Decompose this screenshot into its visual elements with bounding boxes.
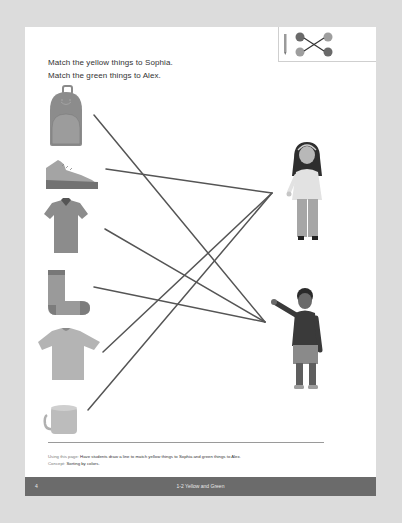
notes-divider: [48, 442, 324, 443]
concept-label: Concept:: [48, 461, 65, 466]
girl-figure-icon[interactable]: [287, 142, 323, 240]
line-sock-to-alex: [94, 287, 265, 322]
using-label: Using this page:: [48, 454, 79, 459]
boy-figure-icon[interactable]: [271, 288, 320, 389]
concept-note: Concept: Sorting by colors.: [48, 461, 100, 466]
using-this-page-note: Using this page: Have students draw a li…: [48, 454, 241, 459]
backpack-icon[interactable]: [50, 86, 82, 146]
line-sneaker-to-sophia: [106, 169, 272, 193]
page-footer: 4 1-2 Yellow and Green: [25, 477, 376, 496]
concept-text: Sorting by colors.: [66, 461, 99, 466]
footer-title: 1-2 Yellow and Green: [25, 483, 376, 489]
polo-shirt-icon[interactable]: [44, 198, 88, 253]
line-mug-to-sophia: [88, 193, 272, 410]
t-shirt-icon[interactable]: [38, 328, 100, 380]
mug-icon[interactable]: [45, 405, 77, 434]
worksheet-artwork: [0, 0, 402, 523]
sock-icon[interactable]: [48, 270, 90, 315]
line-tshirt-to-sophia: [103, 193, 272, 352]
line-backpack-to-alex: [94, 115, 265, 322]
sneaker-icon[interactable]: [46, 160, 98, 189]
matching-lines[interactable]: [88, 115, 272, 410]
using-text: Have students draw a line to match yello…: [80, 454, 241, 459]
